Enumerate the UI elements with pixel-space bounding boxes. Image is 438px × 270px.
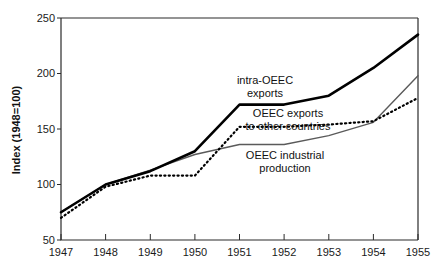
y-axis-title: Index (1948=100)	[10, 85, 22, 174]
annotation-line-1: OEEC industrial	[246, 149, 324, 161]
y-tick-label-150: 150	[37, 123, 55, 135]
x-tick-label-1949: 1949	[138, 246, 162, 258]
y-tick-label-250: 250	[37, 12, 55, 24]
x-tick-label-1950: 1950	[183, 246, 207, 258]
annotation-line-2: to other countries	[246, 120, 331, 132]
annotation-oeec-exports-to-other-countries: OEEC exports to other countries	[246, 107, 331, 132]
y-tick-label-200: 200	[37, 67, 55, 79]
x-tick-label-1952: 1952	[272, 246, 296, 258]
x-tick-label-1955: 1955	[406, 246, 430, 258]
y-tick-label-100: 100	[37, 178, 55, 190]
chart-background	[0, 0, 438, 270]
x-tick-label-1954: 1954	[361, 246, 385, 258]
x-tick-label-1953: 1953	[317, 246, 341, 258]
annotation-line-1: OEEC exports	[253, 107, 324, 119]
x-tick-label-1948: 1948	[93, 246, 117, 258]
x-tick-label-1947: 1947	[49, 246, 73, 258]
line-chart: Index (1948=100) 250 200 150 100 50 1947…	[0, 0, 438, 270]
annotation-line-2: exports	[247, 87, 284, 99]
y-tick-label-50: 50	[43, 234, 55, 246]
annotation-line-1: intra-OEEC	[237, 74, 293, 86]
chart-container: Index (1948=100) 250 200 150 100 50 1947…	[0, 0, 438, 270]
annotation-line-2: production	[259, 162, 310, 174]
x-tick-label-1951: 1951	[227, 246, 251, 258]
